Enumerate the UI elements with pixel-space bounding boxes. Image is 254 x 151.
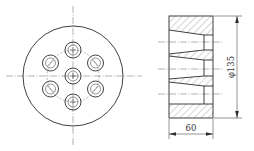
hole-upper-left bbox=[43, 55, 59, 71]
dimension-width: 60 bbox=[169, 119, 213, 139]
width-label: 60 bbox=[186, 123, 197, 133]
technical-drawing: φ135 60 bbox=[0, 0, 254, 151]
hatch-top bbox=[169, 16, 213, 35]
hole-lower-left bbox=[43, 81, 59, 97]
hatch-bottom bbox=[169, 104, 213, 118]
front-view bbox=[6, 6, 142, 146]
diameter-label: φ135 bbox=[226, 56, 236, 78]
hole-upper-right bbox=[88, 55, 104, 71]
hole-lower-right bbox=[88, 81, 104, 97]
section-view bbox=[158, 16, 224, 118]
dimension-diameter: φ135 bbox=[214, 16, 242, 118]
